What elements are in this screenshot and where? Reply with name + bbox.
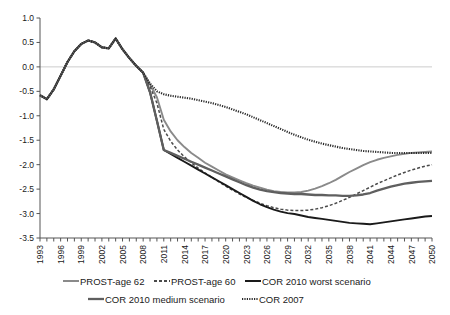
x-tick-label: 2041 [365,245,375,264]
legend-label: COR 2007 [259,294,304,305]
x-tick-label: 2029 [283,245,293,264]
x-tick-label: 2050 [427,245,437,264]
y-tick-label: -3.5 [19,233,34,243]
x-tick-label: 2026 [262,245,272,264]
y-tick-label: -2.0 [19,160,34,170]
y-tick-label: 0.5 [22,37,34,47]
line-chart: 1.00.50.0-0.5-1.0-1.5-2.0-2.5-3.0-3.5 19… [0,0,450,315]
legend-label: COR 2010 medium scenario [105,294,225,305]
y-tick-label: -1.5 [19,135,34,145]
y-tick-label: -2.5 [19,184,34,194]
legend-label: PROST-age 62 [80,276,144,287]
x-tick-label: 1999 [76,245,86,264]
x-tick-label: 2011 [159,245,169,264]
legend-label: COR 2010 worst scenario [262,276,371,287]
x-tick-label: 2023 [242,245,252,264]
x-tick-label: 2038 [345,245,355,264]
y-tick-label: 1.0 [22,13,34,23]
x-tick-label: 2044 [386,245,396,264]
y-tick-label: -1.0 [19,111,34,121]
x-tick-label: 2032 [303,245,313,264]
y-tick-label: -0.5 [19,86,34,96]
x-tick-label: 2005 [118,245,128,264]
x-tick-label: 2047 [407,245,417,264]
x-tick-label: 1993 [35,245,45,264]
x-tick-label: 2014 [180,245,190,264]
x-tick-label: 2008 [138,245,148,264]
legend-label: PROST-age 60 [171,276,235,287]
x-tick-label: 1996 [56,245,66,264]
x-tick-label: 2020 [221,245,231,264]
x-tick-label: 2002 [97,245,107,264]
x-tick-label: 2035 [324,245,334,264]
x-tick-label: 2017 [200,245,210,264]
y-tick-label: 0.0 [22,62,34,72]
y-tick-label: -3.0 [19,209,34,219]
